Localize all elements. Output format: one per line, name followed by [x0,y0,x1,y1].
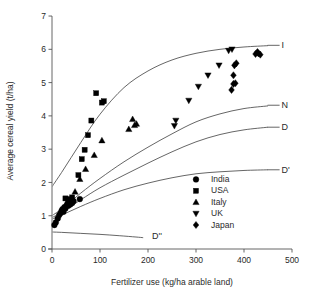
data-point [82,147,87,152]
data-point [85,133,90,138]
legend-marker-triangle-down [193,211,199,217]
series-italy [66,116,140,205]
curve-label-Dp: D' [282,165,290,175]
series-japan [229,48,264,93]
data-point [99,137,105,143]
data-point [205,73,211,79]
legend-label: UK [211,208,223,218]
chart-legend: IndiaUSAItalyUKJapan [193,174,235,230]
data-point [126,126,132,132]
data-point [70,195,75,200]
curve-label-Dpp: D'' [152,231,162,241]
x-axis-title: Fertilizer use (kg/ha arable land) [111,277,233,287]
data-point [82,166,88,172]
x-tick-label: 500 [285,255,299,265]
data-point [72,189,78,195]
data-point [89,118,94,123]
legend-item-usa[interactable]: USA [193,185,228,195]
y-tick-label: 7 [41,11,46,21]
data-point [171,123,177,129]
legend-marker-triangle-up [193,199,199,205]
y-tick-label: 4 [41,111,46,121]
data-point [101,99,106,104]
legend-marker-circle [193,177,199,183]
legend-label: India [211,174,230,184]
data-point [91,152,97,158]
data-point [216,63,222,69]
x-tick-label: 100 [93,255,107,265]
curve-label-D: D [282,122,289,132]
x-tick-label: 0 [50,255,55,265]
curve-label-N: N [282,100,289,110]
curve-label-I: I [282,40,285,50]
y-axis-title: Average cereal yield (t/ha) [5,81,15,180]
curve-Dpp [42,232,143,238]
data-point [130,116,136,122]
series-usa [63,91,106,204]
data-point [173,118,179,124]
legend-label: Japan [211,220,234,230]
data-point [231,72,237,79]
chart-figure: 012345670100200300400500Fertilizer use (… [0,0,312,293]
data-point [94,91,99,96]
legend-item-italy[interactable]: Italy [193,197,227,207]
x-tick-label: 200 [141,255,155,265]
y-tick-label: 0 [41,244,46,254]
legend-marker-diamond [193,221,199,228]
data-point [77,196,83,202]
x-tick-label: 300 [189,255,203,265]
curve-N [42,106,268,222]
data-points [52,47,264,228]
y-tick-label: 2 [41,178,46,188]
legend-label: USA [211,185,229,195]
legend-item-india[interactable]: India [193,174,230,184]
legend-item-japan[interactable]: Japan [193,220,234,230]
scatter-plot: 012345670100200300400500Fertilizer use (… [0,0,312,293]
data-point [79,157,84,162]
y-tick-label: 1 [41,211,46,221]
model-curves [42,45,279,237]
x-tick-label: 400 [237,255,251,265]
legend-item-uk[interactable]: UK [193,208,223,218]
y-tick-label: 3 [41,144,46,154]
y-tick-label: 5 [41,78,46,88]
series-uk [171,47,235,129]
y-tick-label: 6 [41,44,46,54]
data-point [186,98,192,104]
legend-label: Italy [211,197,227,207]
data-point [195,84,201,90]
legend-marker-square [193,188,198,193]
